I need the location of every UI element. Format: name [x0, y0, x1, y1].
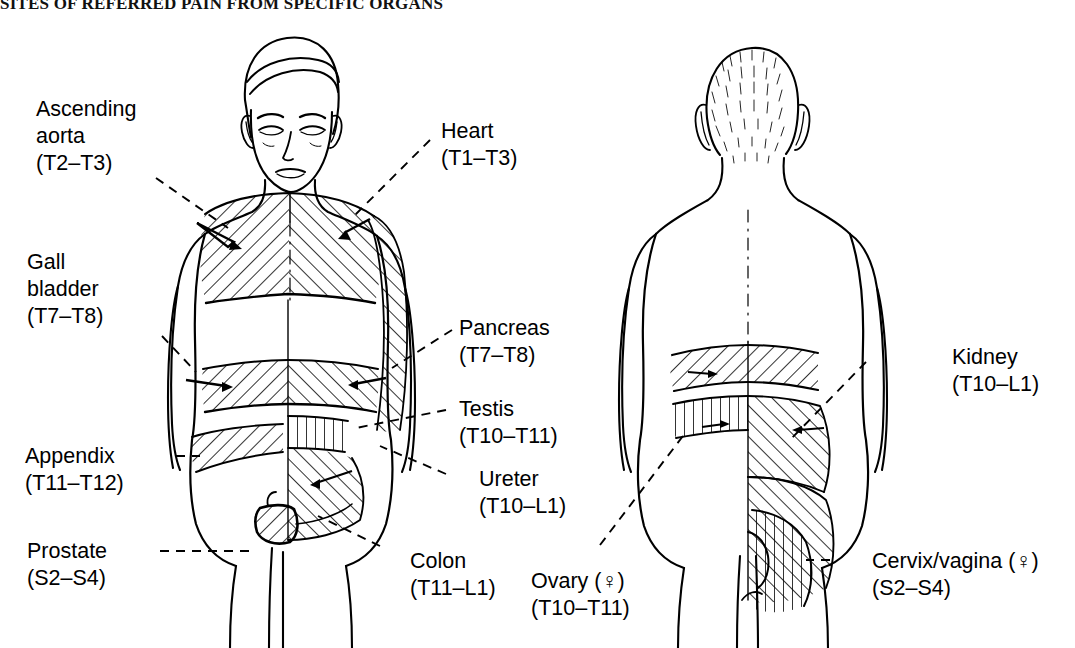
label-ascending-aorta-organ: Ascending: [36, 96, 136, 123]
label-prostate-segments: (S2–S4): [27, 565, 107, 592]
label-appendix-organ: Appendix: [25, 443, 124, 470]
leader-gall-bladder: [162, 336, 196, 372]
leader-ovary: [600, 432, 686, 545]
label-heart-segments: (T1–T3): [441, 145, 517, 172]
label-testis: Testis (T10–T11): [459, 396, 558, 450]
label-colon-organ: Colon: [410, 548, 496, 575]
referred-pain-diagram: SITES OF REFERRED PAIN FROM SPECIFIC ORG…: [0, 0, 1075, 648]
label-ascending-aorta-organ2: aorta: [36, 123, 136, 150]
label-testis-segments: (T10–T11): [459, 423, 558, 450]
label-appendix: Appendix (T11–T12): [25, 443, 124, 497]
label-gall-bladder-organ: Gall: [27, 249, 103, 276]
label-pancreas-segments: (T7–T8): [459, 342, 550, 369]
label-pancreas-organ: Pancreas: [459, 315, 550, 342]
label-ureter-segments: (T10–L1): [479, 493, 566, 520]
leader-heart: [352, 140, 430, 218]
label-ascending-aorta-segments: (T2–T3): [36, 150, 136, 177]
label-ureter: Ureter (T10–L1): [479, 466, 566, 520]
label-kidney-segments: (T10–L1): [952, 371, 1039, 398]
label-ovary-segments: (T10–T11): [531, 595, 630, 622]
label-kidney-organ: Kidney: [952, 344, 1039, 371]
posterior-figure: [619, 48, 887, 648]
label-cervix-vagina-organ: Cervix/vagina (♀): [872, 548, 1039, 575]
label-ascending-aorta: Ascending aorta (T2–T3): [36, 96, 136, 177]
label-testis-organ: Testis: [459, 396, 558, 423]
label-appendix-segments: (T11–T12): [25, 470, 124, 497]
label-gall-bladder-organ2: bladder: [27, 276, 103, 303]
label-prostate-organ: Prostate: [27, 538, 107, 565]
label-heart: Heart (T1–T3): [441, 118, 517, 172]
label-cervix-vagina: Cervix/vagina (♀) (S2–S4): [872, 548, 1039, 602]
label-pancreas: Pancreas (T7–T8): [459, 315, 550, 369]
label-colon: Colon (T11–L1): [410, 548, 496, 602]
label-kidney: Kidney (T10–L1): [952, 344, 1039, 398]
label-ovary-organ: Ovary (♀): [531, 568, 630, 595]
anterior-head: [241, 38, 341, 192]
posterior-head: [695, 48, 809, 163]
label-prostate: Prostate (S2–S4): [27, 538, 107, 592]
label-heart-organ: Heart: [441, 118, 517, 145]
label-colon-segments: (T11–L1): [410, 575, 496, 602]
label-ovary: Ovary (♀) (T10–T11): [531, 568, 630, 622]
label-gall-bladder-segments: (T7–T8): [27, 303, 103, 330]
label-cervix-vagina-segments: (S2–S4): [872, 575, 1039, 602]
label-gall-bladder: Gall bladder (T7–T8): [27, 249, 103, 330]
label-ureter-organ: Ureter: [479, 466, 566, 493]
